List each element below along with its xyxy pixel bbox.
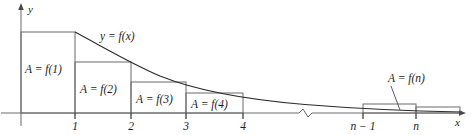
y-axis-arrow-icon <box>18 3 24 10</box>
axis-break-icon <box>299 109 312 117</box>
y-axis-label: y <box>27 3 33 15</box>
tick-label-4: 4 <box>240 120 246 132</box>
tick-label-2: 2 <box>128 120 134 132</box>
x-axis-arrow-icon <box>459 110 466 116</box>
axes-group <box>1 3 466 126</box>
tick-label-n: n <box>413 120 419 132</box>
area-label-4: A = f(4) <box>190 98 228 111</box>
curve-label: y = f(x) <box>99 30 135 43</box>
area-label-3: A = f(3) <box>135 93 173 106</box>
area-label-n: A = f(n) <box>387 72 425 85</box>
area-label-2: A = f(2) <box>79 83 117 96</box>
tick-label-3: 3 <box>182 120 189 132</box>
tick-label-n-minus-1: n − 1 <box>350 120 375 132</box>
riemann-sum-diagram: y x y = f(x) A = f(1) A = f(2) A = f(3) … <box>0 0 471 135</box>
area-label-1: A = f(1) <box>24 63 62 76</box>
callout-leader-line <box>391 86 400 110</box>
tick-mark-group <box>75 113 416 119</box>
tick-label-1: 1 <box>72 120 78 132</box>
x-axis-label: x <box>454 116 460 128</box>
figure-container: y x y = f(x) A = f(1) A = f(2) A = f(3) … <box>0 0 471 135</box>
